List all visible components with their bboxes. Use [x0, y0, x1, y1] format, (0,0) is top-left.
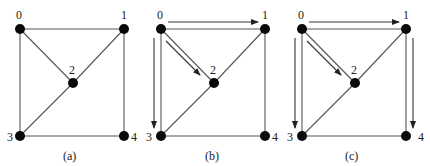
node-3: [297, 131, 307, 141]
node-label-3: 3: [7, 130, 13, 144]
node-0: [297, 24, 307, 34]
node-2: [68, 78, 78, 88]
node-2: [209, 78, 219, 88]
edge-0-2: [20, 29, 73, 83]
edge-0-2: [161, 29, 214, 83]
node-label-4: 4: [418, 130, 424, 144]
node-1: [401, 24, 411, 34]
node-4: [260, 131, 270, 141]
node-1: [260, 24, 270, 34]
node-label-4: 4: [131, 130, 137, 144]
edge-2-3: [161, 83, 214, 136]
graph-figure-svg: 0 1 2 3 4 (a): [0, 0, 430, 166]
node-3: [15, 131, 25, 141]
node-label-0: 0: [157, 8, 163, 22]
node-label-1: 1: [403, 8, 409, 22]
node-label-2: 2: [351, 63, 357, 77]
edge-0-2: [302, 29, 355, 83]
edge-1-2: [355, 29, 406, 83]
node-label-4: 4: [272, 130, 278, 144]
node-label-2: 2: [69, 63, 75, 77]
node-3: [156, 131, 166, 141]
caption-c: (c): [345, 149, 358, 163]
node-label-0: 0: [298, 8, 304, 22]
node-label-3: 3: [146, 130, 152, 144]
node-labels: 0 1 2 3 4: [7, 8, 137, 144]
node-0: [15, 24, 25, 34]
node-1: [119, 24, 129, 34]
caption-a: (a): [63, 149, 76, 163]
edge-1-2: [214, 29, 265, 83]
node-label-3: 3: [287, 130, 293, 144]
node-4: [401, 131, 411, 141]
panel-b: 0 1 2 3 4 (b): [146, 8, 278, 163]
node-label-0: 0: [16, 8, 22, 22]
panel-a: 0 1 2 3 4 (a): [7, 8, 137, 163]
graph-figure: 0 1 2 3 4 (a): [0, 0, 430, 166]
edge-2-3: [20, 83, 73, 136]
node-0: [156, 24, 166, 34]
node-4: [119, 131, 129, 141]
edge-2-3: [302, 83, 355, 136]
panel-c: 0 1 2 3 4 (c): [287, 8, 424, 163]
node-label-1: 1: [262, 8, 268, 22]
node-2: [350, 78, 360, 88]
caption-b: (b): [205, 149, 219, 163]
edge-1-2: [73, 29, 124, 83]
arrow-0-2: [307, 41, 341, 75]
node-label-2: 2: [210, 63, 216, 77]
node-label-1: 1: [121, 8, 127, 22]
arrow-0-2: [166, 41, 200, 75]
